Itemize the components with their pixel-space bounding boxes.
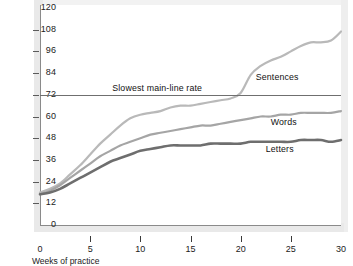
- reference-line-label: Slowest main-line rate: [112, 83, 202, 93]
- series-label-sentences: Sentences: [256, 72, 299, 82]
- reference-line-slowest-main-line-rate: [40, 95, 341, 96]
- series-label-words: Words: [271, 117, 297, 127]
- series-label-letters: Letters: [266, 144, 294, 154]
- x-axis-title: Weeks of practice: [32, 256, 99, 266]
- chart-figure: 01224364860728496108120 051015202530 Slo…: [0, 0, 353, 266]
- series-curves: [0, 0, 353, 266]
